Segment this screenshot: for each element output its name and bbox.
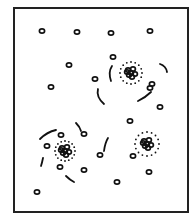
cluster-lower-left bbox=[54, 140, 76, 162]
particle-circle bbox=[81, 132, 86, 136]
ring-dot bbox=[73, 154, 75, 156]
particle-circle bbox=[48, 85, 53, 89]
particle-circle bbox=[58, 133, 63, 137]
particle-circle bbox=[114, 180, 119, 184]
ring-dot bbox=[64, 140, 66, 142]
particle-circle bbox=[92, 77, 97, 81]
ring-dot bbox=[157, 148, 159, 150]
ring-dot bbox=[74, 150, 76, 152]
particle-circle bbox=[97, 153, 102, 157]
ring-dot bbox=[134, 62, 136, 64]
arc-stroke bbox=[40, 130, 56, 139]
ring-dot bbox=[55, 146, 57, 148]
ring-dot bbox=[60, 141, 62, 143]
ring-dot bbox=[141, 72, 143, 74]
particle-circle bbox=[57, 165, 62, 169]
ring-dot bbox=[155, 135, 157, 137]
ring-dot bbox=[126, 82, 128, 84]
ring-dot bbox=[130, 83, 132, 85]
cluster-lower-right bbox=[134, 131, 160, 157]
ring-dot bbox=[68, 159, 70, 161]
ring-dot bbox=[122, 80, 124, 82]
ring-dot bbox=[73, 146, 75, 148]
ring-dot bbox=[126, 62, 128, 64]
particle-circle bbox=[130, 154, 135, 158]
particle-circle bbox=[147, 29, 152, 33]
ring-dot bbox=[142, 154, 144, 156]
ring-dot bbox=[57, 157, 59, 159]
ring-dot bbox=[135, 148, 137, 150]
ring-dot bbox=[60, 159, 62, 161]
particle-circle bbox=[147, 86, 152, 90]
cluster-upper-right bbox=[119, 61, 143, 85]
ring-dot bbox=[134, 82, 136, 84]
ring-dot bbox=[158, 143, 160, 145]
arc-stroke bbox=[41, 158, 43, 166]
ring-dot bbox=[138, 135, 140, 137]
ring-dot bbox=[146, 131, 148, 133]
ring-dot bbox=[54, 150, 56, 152]
ring-dot bbox=[119, 72, 121, 74]
ring-dot bbox=[138, 64, 140, 66]
ring-dot bbox=[130, 61, 132, 63]
particle-circle bbox=[39, 29, 44, 33]
ring-dot bbox=[71, 143, 73, 145]
particle-circle bbox=[34, 190, 39, 194]
particle-circle bbox=[66, 63, 71, 67]
particle-circle bbox=[127, 119, 132, 123]
ring-dot bbox=[120, 76, 122, 78]
ring-dot bbox=[55, 154, 57, 156]
ring-dot bbox=[140, 68, 142, 70]
arc-stroke bbox=[110, 66, 112, 81]
ring-dot bbox=[157, 139, 159, 141]
ring-dot bbox=[57, 143, 59, 145]
arc-stroke bbox=[98, 89, 104, 104]
arc-stroke bbox=[104, 138, 108, 151]
particle-circle bbox=[157, 105, 162, 109]
ring-dot bbox=[68, 141, 70, 143]
particle-diagram bbox=[0, 0, 196, 223]
ring-dot bbox=[151, 132, 153, 134]
ring-dot bbox=[71, 157, 73, 159]
particle-circle bbox=[74, 30, 79, 34]
ring-dot bbox=[151, 154, 153, 156]
arc-stroke bbox=[76, 123, 81, 131]
particle-circle bbox=[108, 31, 113, 35]
ring-dot bbox=[155, 152, 157, 154]
particle-circle bbox=[44, 144, 49, 148]
ring-dot bbox=[120, 68, 122, 70]
ring-dot bbox=[134, 143, 136, 145]
ring-dot bbox=[64, 160, 66, 162]
particle-circle bbox=[146, 170, 151, 174]
arc-stroke bbox=[138, 92, 151, 101]
ring-dot bbox=[142, 132, 144, 134]
particle-circle bbox=[81, 168, 86, 172]
arc-stroke bbox=[160, 64, 167, 72]
ring-dot bbox=[138, 152, 140, 154]
ring-dot bbox=[135, 139, 137, 141]
arc-stroke bbox=[66, 176, 74, 182]
ring-dot bbox=[146, 155, 148, 157]
particle-circle bbox=[110, 55, 115, 59]
ring-dot bbox=[138, 80, 140, 82]
ring-dot bbox=[140, 76, 142, 78]
ring-dot bbox=[122, 64, 124, 66]
